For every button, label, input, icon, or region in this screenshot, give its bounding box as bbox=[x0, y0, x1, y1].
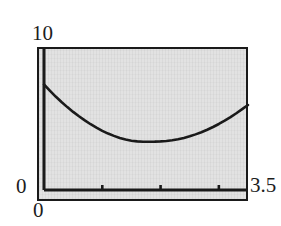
chart-screenshot: 10 0 0 3.5 bbox=[0, 0, 281, 226]
y-axis-max-label: 10 bbox=[32, 23, 53, 44]
data-curve bbox=[44, 85, 248, 142]
x-axis-tick bbox=[101, 185, 104, 190]
x-axis-min-label: 0 bbox=[33, 200, 44, 221]
plot-frame bbox=[37, 47, 248, 201]
x-axis-max-label: 3.5 bbox=[250, 175, 276, 196]
x-axis-tick bbox=[218, 185, 221, 190]
y-axis-min-label: 0 bbox=[16, 176, 27, 197]
x-axis-tick bbox=[159, 185, 162, 190]
plot-canvas bbox=[39, 49, 250, 203]
